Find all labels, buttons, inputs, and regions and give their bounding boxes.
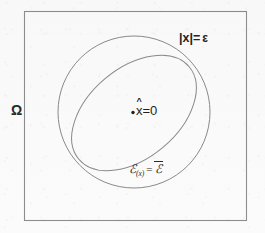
script-e-bar-wrapper: ℰ	[155, 162, 162, 175]
energy-equals-sign: =	[146, 163, 152, 175]
x-hat-equation-text: =0	[143, 103, 158, 118]
x-hat-stack: ^x	[136, 104, 143, 117]
script-e-subscript: (x)	[136, 169, 144, 178]
phase-portrait-figure: Ω |x|=ε ^x=0 ℰ(x)=ℰ	[0, 0, 265, 233]
energy-level-set-label: ℰ(x)=ℰ	[129, 162, 162, 178]
equilibrium-point-label: ^x=0	[136, 104, 157, 117]
epsilon-ball-label: |x|=ε	[179, 32, 208, 45]
script-e-symbol: ℰ	[129, 162, 136, 176]
omega-domain-label: Ω	[11, 103, 22, 117]
epsilon-ball-label-text: |x|=	[179, 31, 200, 45]
epsilon-symbol: ε	[202, 31, 208, 45]
hat-accent-icon: ^	[137, 97, 142, 106]
script-e-bar-symbol: ℰ	[155, 162, 162, 176]
equilibrium-point-dot	[131, 111, 134, 114]
figure-vector-layer	[0, 0, 265, 233]
